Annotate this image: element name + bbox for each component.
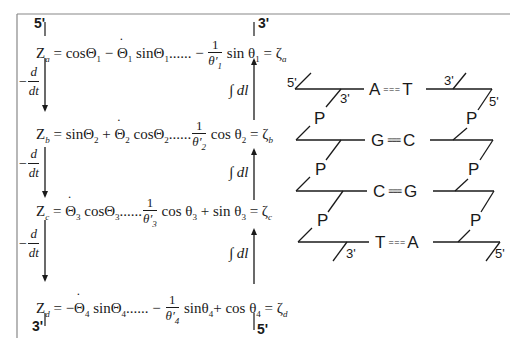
derivative-label-2: −ddt [18, 146, 40, 181]
right-strand-3prime: 3' [444, 74, 454, 87]
fraction: 1θ′4 [166, 293, 180, 326]
derivative-label-1: −ddt [18, 64, 40, 99]
top-left-end-label: 5' [34, 16, 45, 30]
hydrogen-bond-double: = = = [383, 85, 399, 94]
base-pair-2: G ≡≡≡ C [371, 132, 415, 149]
integral-label-2: ∫ dl [229, 164, 249, 181]
fraction: 1θ′1 [208, 38, 222, 71]
equation-row-c: Zc = Θ3 cosΘ3......1θ′3 cos θ3 + sin θ3 … [36, 196, 272, 229]
equation-row-b: Zb = sinΘ2 + Θ2 cosΘ2......1θ′2 cos θ2 =… [36, 119, 273, 152]
phosphate-right-1: P [466, 110, 477, 127]
phosphate-left-2: P [315, 161, 326, 178]
phosphate-left-1: P [314, 110, 325, 127]
left-strand-5prime: 5' [287, 76, 297, 89]
base-pair-4: T = = = A [375, 234, 419, 251]
fraction: 1θ′3 [143, 196, 157, 229]
phosphate-left-3: P [317, 212, 328, 229]
hydrogen-bond-triple: ≡≡≡ [388, 187, 401, 196]
right-inner-5prime: 5' [489, 95, 499, 108]
hydrogen-bond-triple: ≡≡≡ [387, 136, 400, 145]
derivative-label-3: −ddt [18, 226, 40, 261]
phosphate-right-2: P [468, 161, 479, 178]
hydrogen-bond-double: = = = [388, 238, 404, 247]
left-strand-3prime-bottom: 3' [346, 247, 356, 260]
phosphate-right-3: P [470, 212, 481, 229]
left-inner-3prime: 3' [340, 92, 350, 105]
top-right-end-label: 3' [258, 16, 269, 30]
right-strand-5prime-bottom: 5' [495, 247, 505, 260]
fraction: 1θ′2 [192, 119, 206, 152]
equation-row-a: Za = cosΘ1 − Θ1 sinΘ1...... − 1θ′1 sin θ… [36, 38, 286, 71]
integral-label-1: ∫ dl [229, 82, 249, 99]
base-pair-3: C ≡≡≡ G [373, 183, 417, 200]
equation-row-d: Zd = −Θ4 sinΘ4...... − 1θ′4 sinθ4+ cos θ… [36, 293, 288, 326]
integral-label-3: ∫ dl [229, 245, 249, 262]
base-pair-1: A = = = T [369, 81, 413, 98]
